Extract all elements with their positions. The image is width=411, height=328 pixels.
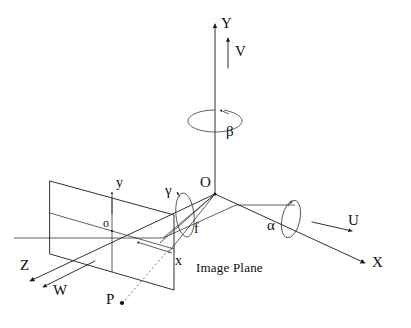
scene-point-marker-P <box>120 301 124 305</box>
point-label-o: o <box>103 217 109 229</box>
figure-caption-image-plane: Image Plane <box>196 261 263 274</box>
vector-label-W: W <box>53 283 67 298</box>
projection-ray-from-P <box>125 247 171 300</box>
axis-label-Y: Y <box>221 16 232 31</box>
point-label-P: P <box>106 292 114 307</box>
principal-point-marker-o <box>111 230 113 232</box>
vector-label-V: V <box>235 44 246 59</box>
rotation-label-gamma: γ <box>165 183 172 198</box>
diagram-canvas <box>0 0 411 328</box>
image-axis-label-y: y <box>116 176 123 190</box>
axis-line-Z <box>30 194 215 281</box>
rotation-arc-gamma <box>174 192 197 238</box>
rotation-label-beta: β <box>226 124 234 139</box>
point-label-O: O <box>200 175 211 190</box>
axis-label-Z: Z <box>20 258 29 273</box>
axis-label-X: X <box>372 255 383 270</box>
origin-marker-O <box>214 193 217 196</box>
rotation-label-alpha: α <box>267 218 275 233</box>
measurement-label-f: f <box>194 222 199 236</box>
image-axis-label-x: x <box>175 254 182 268</box>
vector-line-U <box>312 222 352 231</box>
camera-geometry-diagram: Y V β O γ y o f x α U X Z W P Image Plan… <box>0 0 411 328</box>
vector-label-U: U <box>348 213 359 228</box>
